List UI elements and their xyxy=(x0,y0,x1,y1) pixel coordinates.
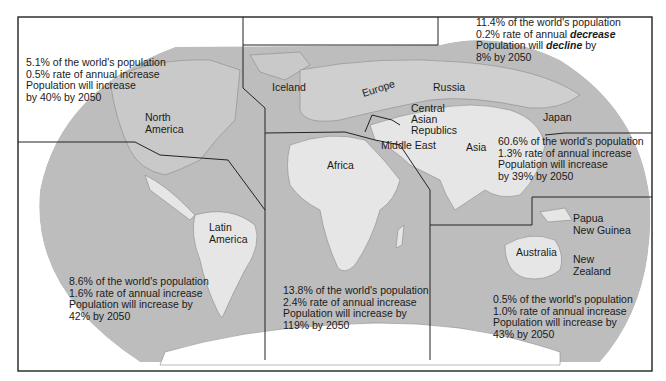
stat-projection: Population will increase by xyxy=(69,299,209,311)
stats-north-america: 5.1% of the world's population 0.5% rate… xyxy=(26,57,166,103)
stat-share: 60.6% of the world's population xyxy=(498,136,644,148)
stat-share: 13.8% of the world's population xyxy=(283,285,429,297)
label-line: America xyxy=(145,123,184,135)
label-japan: Japan xyxy=(543,111,572,123)
stat-share: 8.6% of the world's population xyxy=(69,276,209,288)
stat-projection: Population will increase by xyxy=(283,308,429,320)
stat-rate-emphasis: decrease xyxy=(570,28,616,40)
label-line: New Guinea xyxy=(573,224,631,236)
stat-projection: Population will increase xyxy=(26,80,166,92)
stat-projection: Population will increase by xyxy=(493,317,633,329)
label-line: North xyxy=(145,111,184,123)
label-iceland: Iceland xyxy=(272,81,306,93)
stat-share: 0.5% of the world's population xyxy=(493,294,633,306)
stat-projection: 43% by 2050 xyxy=(493,329,633,341)
border-russia-top xyxy=(243,17,438,45)
label-russia: Russia xyxy=(433,81,465,93)
label-middle-east: Middle East xyxy=(381,139,436,151)
label-line: Latin xyxy=(209,221,248,233)
label-latin-america: Latin America xyxy=(209,221,248,245)
stats-russia: 11.4% of the world's population 0.2% rat… xyxy=(476,17,621,63)
stat-projection: by 40% by 2050 xyxy=(26,92,166,104)
label-north-america: North America xyxy=(145,111,184,135)
stats-asia: 60.6% of the world's population 1.3% rat… xyxy=(498,136,644,182)
label-line: America xyxy=(209,233,248,245)
label-line: New xyxy=(573,253,611,265)
stat-projection: 119% by 2050 xyxy=(283,320,429,332)
label-new-zealand: New Zealand xyxy=(573,253,611,277)
stat-projection: Population will decline by xyxy=(476,40,621,52)
label-asia: Asia xyxy=(466,141,486,153)
stat-projection-emphasis: decline xyxy=(546,39,582,51)
stats-africa: 13.8% of the world's population 2.4% rat… xyxy=(283,285,429,331)
stats-oceania: 0.5% of the world's population 1.0% rate… xyxy=(493,294,633,340)
label-line: Papua xyxy=(573,212,631,224)
label-line: Republics xyxy=(411,125,457,136)
stat-share: 5.1% of the world's population xyxy=(26,57,166,69)
label-line: Zealand xyxy=(573,265,611,277)
stat-rate-text: 0.2% rate of annual xyxy=(476,28,570,40)
stat-projection: Population will increase xyxy=(498,159,644,171)
label-papua-new-guinea: Papua New Guinea xyxy=(573,212,631,236)
label-australia: Australia xyxy=(516,246,557,258)
label-africa: Africa xyxy=(327,159,354,171)
stat-projection-text: Population will xyxy=(476,39,546,51)
label-central-asian-republics: Central Asian Republics xyxy=(411,103,457,136)
stat-projection: 8% by 2050 xyxy=(476,52,621,64)
stat-projection: 42% by 2050 xyxy=(69,311,209,323)
stats-latin-america: 8.6% of the world's population 1.6% rate… xyxy=(69,276,209,322)
stat-projection-text: by xyxy=(582,39,596,51)
stat-projection: by 39% by 2050 xyxy=(498,171,644,183)
